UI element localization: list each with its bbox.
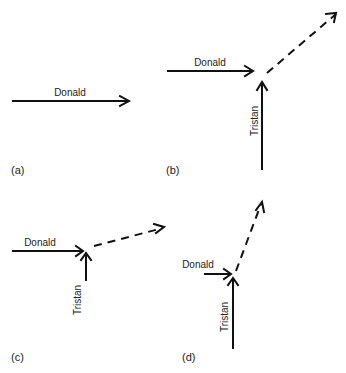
donald-label: Donald — [54, 87, 86, 98]
resultant-vector — [236, 204, 261, 271]
arrowhead-icon — [154, 224, 164, 233]
donald-label: Donald — [182, 259, 214, 270]
tristan-label: Tristan — [219, 302, 230, 332]
panel-d: Donald Tristan (d) — [182, 202, 264, 363]
tristan-label: Tristan — [249, 106, 260, 136]
tristan-label: Tristan — [72, 285, 83, 315]
resultant-vector — [94, 228, 163, 246]
panel-label-a: (a) — [11, 164, 24, 176]
arrowhead-icon — [256, 202, 264, 212]
panel-c: Donald Tristan (c) — [11, 224, 164, 363]
panel-label-d: (d) — [182, 351, 195, 363]
donald-label: Donald — [194, 57, 226, 68]
vector-diagram: Donald (a) Donald Tristan (b) Donald Tri… — [0, 0, 346, 373]
resultant-vector — [267, 14, 336, 73]
panel-b: Donald Tristan (b) — [166, 13, 336, 176]
donald-label: Donald — [24, 237, 56, 248]
panel-a: Donald (a) — [11, 87, 129, 176]
panel-label-c: (c) — [11, 351, 24, 363]
panel-label-b: (b) — [166, 164, 179, 176]
